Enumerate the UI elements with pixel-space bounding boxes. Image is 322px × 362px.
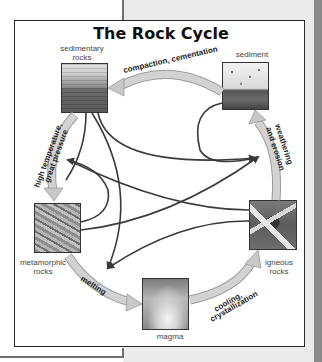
interior-paths [66,103,258,268]
melting-label: melting [79,274,108,297]
compaction-arrow [108,74,222,96]
weathering-arrow [249,110,277,200]
melting-arrow [68,256,142,311]
cycle-arrows: compaction, cementation weathering and e… [0,0,322,362]
